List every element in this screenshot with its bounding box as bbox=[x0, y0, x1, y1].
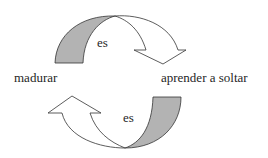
top-arrow-body bbox=[115, 16, 186, 64]
bottom-arrow-body bbox=[48, 96, 125, 148]
top-curved-arrow bbox=[55, 16, 186, 64]
label-aprender-a-soltar: aprender a soltar bbox=[161, 71, 248, 85]
label-madurar: madurar bbox=[14, 71, 57, 85]
label-bottom-es: es bbox=[123, 111, 134, 125]
label-top-es: es bbox=[97, 36, 108, 50]
bottom-curved-arrow bbox=[48, 96, 181, 148]
